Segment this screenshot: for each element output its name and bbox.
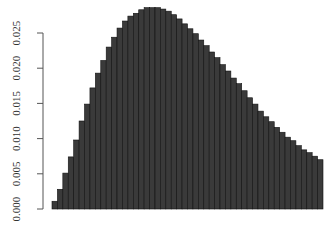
bar [269,122,274,209]
bar [128,16,133,209]
bar [253,104,258,209]
bar [182,24,187,209]
bar [95,73,100,209]
bar [85,104,90,209]
bar [296,146,301,209]
y-tick-label: 0.005 [10,161,22,186]
bar-chart: 0.0000.0050.0100.0150.0200.025 [0,0,333,233]
bar [193,34,198,209]
bar [122,21,127,209]
bar [117,28,122,209]
bar [220,65,225,209]
y-tick-label: 0.010 [10,126,22,151]
bar [52,201,57,209]
bar [74,140,79,209]
bar [258,111,263,209]
bar [242,91,247,209]
bar [290,141,295,209]
bar [188,29,193,209]
bar [155,8,160,209]
bar [139,10,144,209]
bar [144,8,149,209]
bar [68,157,73,209]
bar [57,189,62,209]
bar [63,173,68,209]
y-tick-label: 0.000 [10,196,22,221]
bar [301,150,306,209]
bar [312,156,317,209]
bar [263,117,268,209]
bar [231,78,236,209]
y-tick-label: 0.015 [10,91,22,116]
bar [307,153,312,209]
bar [90,88,95,209]
bar [215,58,220,209]
bars [52,8,323,209]
bar [198,40,203,209]
bar [171,15,176,209]
bar [318,160,323,209]
bar [112,37,117,209]
bar [166,11,171,209]
bar [285,137,290,209]
bar [236,84,241,209]
bar [274,127,279,209]
y-tick-label: 0.025 [10,20,22,45]
bar [247,98,252,209]
bar [106,47,111,209]
bar [204,46,209,209]
bar [225,71,230,209]
bar [209,52,214,209]
bar [177,19,182,209]
y-tick-label: 0.020 [10,55,22,80]
y-axis: 0.0000.0050.0100.0150.0200.025 [10,20,43,221]
bar [101,60,106,209]
bar [79,121,84,209]
bar [133,13,138,209]
bar [150,8,155,209]
bar [160,9,165,209]
bar [280,132,285,209]
